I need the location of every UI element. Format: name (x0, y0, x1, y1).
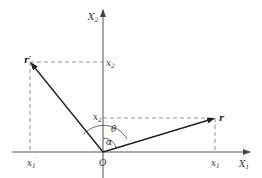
x2-prime-label: x2′ (106, 56, 117, 69)
rotation-diagram: X2 X1 r′ r x2′ x2 x1′ x1 O θ α (0, 0, 262, 178)
theta-label: θ (111, 124, 117, 134)
x2-axis-label: X2 (87, 12, 98, 23)
x2-label: x2 (93, 112, 102, 123)
x1-prime-label: x1′ (27, 156, 38, 169)
x1-label: x1 (211, 158, 220, 169)
vector-r-prime (31, 63, 103, 152)
origin-label: O (99, 158, 107, 168)
alpha-label: α (106, 137, 112, 147)
vector-r-label: r (219, 113, 225, 123)
vector-r-prime-label: r′ (24, 55, 32, 65)
vector-r (103, 119, 214, 153)
x1-axis-label: X1 (238, 159, 249, 170)
